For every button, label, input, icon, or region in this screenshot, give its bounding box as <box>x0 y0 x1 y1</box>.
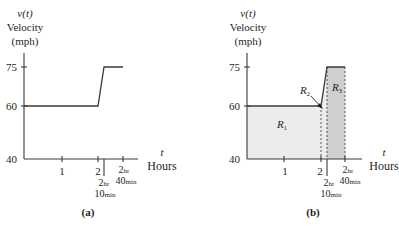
x-label-hours-b: Hours <box>369 159 399 173</box>
x-tick-label-1-b: 1 <box>282 165 288 177</box>
y-label-velocity-a: Velocity <box>7 21 44 33</box>
x-tick-label-2h10-min-a: 10min <box>95 188 116 199</box>
y-tick-label-75-a: 75 <box>6 61 18 73</box>
x-tick-label-2h10-a: 2hr <box>99 177 111 188</box>
caption-a: (a) <box>82 206 95 219</box>
y-label-velocity-b: Velocity <box>230 21 267 33</box>
figure: v(t) Velocity (mph) 75 60 40 1 2 2hr 10m… <box>0 0 399 231</box>
x-tick-label-2-b: 2 <box>317 165 323 177</box>
y-tick-label-60-b: 60 <box>229 100 241 112</box>
chart-b: v(t) Velocity (mph) 75 60 40 1 2 2hr 10m… <box>229 7 399 219</box>
velocity-curve-a <box>24 67 123 106</box>
y-tick-label-75-b: 75 <box>229 61 241 73</box>
y-tick-label-40-b: 40 <box>229 153 241 165</box>
y-tick-label-60-a: 60 <box>6 100 18 112</box>
x-label-hours-a: Hours <box>147 159 177 173</box>
region-r1 <box>247 106 321 159</box>
y-label-mph-b: (mph) <box>235 35 262 48</box>
y-label-mph-a: (mph) <box>12 35 39 48</box>
x-tick-label-2-a: 2 <box>95 165 101 177</box>
region-label-r2: R2 <box>299 84 311 98</box>
x-tick-label-1-a: 1 <box>59 165 65 177</box>
x-tick-label-2h10-min-b: 10min <box>321 188 342 199</box>
x-tick-label-2h40-b: 2hr <box>343 164 355 175</box>
region-r2 <box>321 67 327 159</box>
chart-a: v(t) Velocity (mph) 75 60 40 1 2 2hr 10m… <box>6 7 177 219</box>
y-label-vt-a: v(t) <box>17 7 33 20</box>
x-tick-label-2h10-b: 2hr <box>324 177 336 188</box>
x-tick-label-2h40-min-a: 40min <box>116 175 137 186</box>
x-label-t-b: t <box>382 146 386 158</box>
x-tick-label-2h40-a: 2hr <box>119 164 131 175</box>
x-label-t-a: t <box>160 146 164 158</box>
x-tick-label-2h40-min-b: 40min <box>340 175 361 186</box>
y-label-vt-b: v(t) <box>240 7 256 20</box>
y-tick-label-40-a: 40 <box>6 153 18 165</box>
caption-b: (b) <box>306 206 320 219</box>
